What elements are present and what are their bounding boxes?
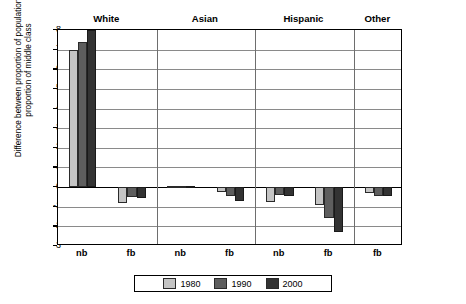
gridline [58,50,401,51]
legend-entry: 2000 [266,278,303,289]
legend-swatch [214,278,227,289]
gridline [58,69,401,70]
bar [365,187,374,193]
bar [118,187,127,203]
bar [315,187,324,205]
gridline [58,207,401,208]
legend-swatch [163,278,176,289]
legend-entry: 1990 [214,278,251,289]
bar [235,187,244,201]
x-tick-label-nb: nb [254,248,303,258]
group-header-white: White [57,13,156,24]
bar [226,187,235,196]
bar [217,187,226,192]
group-separator [157,30,158,244]
x-tick-label-fb: fb [303,248,352,258]
legend-label: 1990 [231,279,251,289]
legend-label: 2000 [283,279,303,289]
bar [87,30,96,187]
gridline [58,167,401,168]
plot-area [57,29,402,245]
bar [334,187,343,232]
bar [383,187,392,196]
bar [324,187,333,217]
chart-legend: 198019902000 [134,275,332,292]
bar [167,186,176,188]
bar [127,187,136,197]
gridline [58,109,401,110]
x-tick-label-fb: fb [106,248,155,258]
y-axis-title: Difference between proportion of populat… [14,0,34,170]
bar [186,186,195,188]
chart-figure: Difference between proportion of populat… [0,0,466,304]
legend-entry: 1980 [163,278,200,289]
bar [266,187,275,202]
x-tick-label-fb: fb [353,248,402,258]
bar [284,187,293,196]
group-header-asian: Asian [156,13,255,24]
gridline [58,226,401,227]
bar [275,187,284,195]
bar [374,187,383,196]
y-tick-mark [53,245,57,246]
gridline [58,128,401,129]
group-separator [354,30,355,244]
bar [177,186,186,188]
gridline [58,148,401,149]
group-header-other: Other [353,13,402,24]
x-tick-label-fb: fb [205,248,254,258]
bar [69,50,78,187]
legend-swatch [266,278,279,289]
x-tick-label-nb: nb [156,248,205,258]
gridline [58,89,401,90]
x-tick-label-nb: nb [57,248,106,258]
group-separator [255,30,256,244]
bar [78,42,87,187]
bar [137,187,146,198]
legend-label: 1980 [180,279,200,289]
group-header-hispanic: Hispanic [254,13,353,24]
